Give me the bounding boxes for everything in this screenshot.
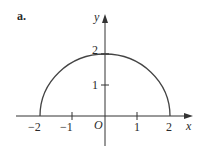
- semicircle-plot: a. x y −2 −1 1 2 O 1 2: [0, 0, 207, 157]
- x-tick-label-minus-2: −2: [28, 120, 41, 134]
- y-axis-label: y: [93, 10, 100, 24]
- y-axis-arrow-icon: [102, 14, 108, 23]
- y-tick-label-1: 1: [92, 78, 98, 92]
- origin-label: O: [94, 118, 103, 132]
- x-tick-label-2: 2: [166, 120, 172, 134]
- x-tick-label-1: 1: [134, 120, 140, 134]
- panel-label: a.: [17, 9, 26, 23]
- x-axis-label: x: [185, 119, 192, 133]
- x-tick-label-minus-1: −1: [60, 120, 73, 134]
